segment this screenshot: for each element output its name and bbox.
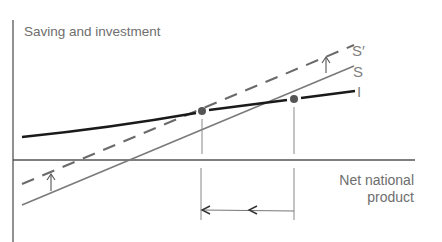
s-label: S <box>353 63 363 80</box>
s-line <box>22 66 354 205</box>
i-line <box>22 91 355 137</box>
i-label: I <box>357 83 361 100</box>
paradox-of-thrift-diagram: Saving and investment Net national produ… <box>0 0 442 242</box>
x-axis-label-line1: Net national <box>339 172 414 189</box>
shift-arrow-right <box>322 57 330 73</box>
x-axis-label: Net national product <box>339 172 414 206</box>
s-prime-label: S′ <box>352 42 365 59</box>
shift-arrow-left <box>47 174 55 191</box>
x-axis-label-line2: product <box>339 189 414 206</box>
old-equilibrium-dot <box>290 95 298 103</box>
new-equilibrium-dot <box>198 107 206 115</box>
y-axis-label: Saving and investment <box>24 24 161 39</box>
output-decline-arrow <box>202 206 294 214</box>
